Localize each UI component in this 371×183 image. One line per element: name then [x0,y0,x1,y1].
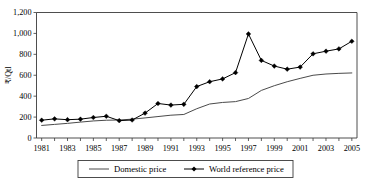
x-tick-label: 1997 [240,144,256,153]
x-tick-label: 2005 [344,144,360,153]
legend-label-world-reference-price: World reference price [209,164,284,174]
series-line-domestic-price [42,73,352,126]
x-tick-label: 1989 [137,144,153,153]
x-tick-label: 1985 [85,144,101,153]
data-point-marker [91,115,96,120]
data-point-marker [259,58,264,63]
data-point-marker [349,39,354,44]
data-point-marker [117,118,122,123]
y-tick-label: 800 [19,50,31,59]
data-point-marker [233,70,238,75]
x-tick-label: 1987 [111,144,127,153]
data-point-marker [272,64,277,69]
data-point-marker [246,32,251,37]
data-point-marker [285,67,290,72]
x-tick-label: 1991 [163,144,179,153]
data-point-marker [220,77,225,82]
data-point-marker [52,117,57,122]
x-tick-label: 1993 [189,144,205,153]
y-tick-label: 600 [19,71,31,80]
x-tick-label: 1981 [33,144,49,153]
x-tick-label: 2003 [318,144,334,153]
y-tick-label: 200 [19,113,31,122]
price-line-chart: 02004006008001,0001,20019811983198519871… [0,0,371,183]
data-point-marker [130,118,135,123]
data-point-marker [104,114,109,119]
y-tick-label: 1,200 [13,8,31,17]
data-point-marker [337,47,342,52]
y-tick-label: 1,000 [13,29,31,38]
x-tick-label: 1995 [214,144,230,153]
x-tick-label: 1983 [59,144,75,153]
data-point-marker [207,79,212,84]
y-tick-label: 0 [27,134,31,143]
legend-label-domestic-price: Domestic price [114,164,166,174]
chart-figure: 02004006008001,0001,20019811983198519871… [0,0,371,183]
x-tick-label: 1999 [266,144,282,153]
y-axis-title: ₹/Qtl [4,66,13,84]
data-point-marker [324,49,329,54]
y-tick-label: 400 [19,92,31,101]
data-point-marker [169,103,174,108]
data-point-marker [39,118,44,123]
data-point-marker [65,117,70,122]
data-point-marker [78,117,83,122]
x-tick-label: 2001 [292,144,308,153]
